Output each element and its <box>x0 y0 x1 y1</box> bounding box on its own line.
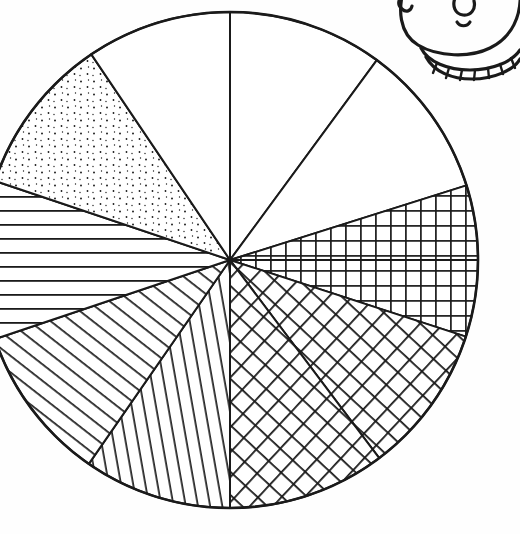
drawing-canvas: Slice 1 — plain whiteSlice 2 — plain whi… <box>0 0 520 534</box>
pie-chart[interactable]: Slice 1 — plain whiteSlice 2 — plain whi… <box>0 0 520 534</box>
